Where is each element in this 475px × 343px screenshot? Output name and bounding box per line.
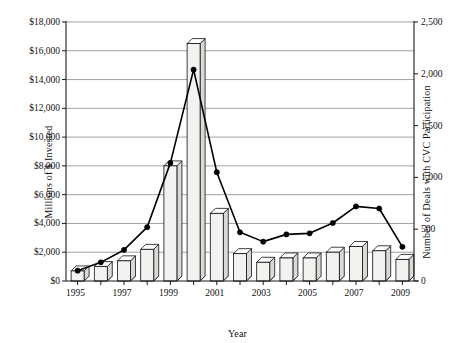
- y-axis-left-tick-label: $18,000: [8, 17, 60, 27]
- bar-face: [350, 246, 363, 281]
- deals-marker: [121, 247, 126, 252]
- y-axis-left-tick-label: $6,000: [8, 190, 60, 200]
- bar-face: [396, 259, 409, 281]
- y-axis-left-tick-label: $16,000: [8, 46, 60, 56]
- y-axis-left-tick-label: $14,000: [8, 75, 60, 85]
- deals-marker: [307, 231, 312, 236]
- deals-marker: [284, 232, 289, 237]
- deals-marker: [330, 220, 335, 225]
- y-axis-right-tick-label: 2,000: [421, 69, 442, 79]
- deals-marker: [98, 260, 103, 265]
- x-axis-tick-label: 2005: [298, 288, 317, 298]
- bar-face: [187, 44, 200, 281]
- y-axis-left-tick-label: $12,000: [8, 103, 60, 113]
- deals-marker: [75, 268, 80, 273]
- bar-side: [177, 161, 182, 281]
- bar-face: [141, 249, 154, 281]
- x-axis-tick-label: 2001: [205, 288, 224, 298]
- y-axis-right-tick-label: 0: [421, 276, 426, 286]
- bar-face: [303, 258, 316, 281]
- deals-marker: [145, 225, 150, 230]
- deals-marker: [237, 230, 242, 235]
- y-axis-right-tick-label: 2,500: [421, 17, 442, 27]
- bar-side: [362, 241, 367, 281]
- bar-side: [386, 246, 391, 281]
- x-axis-tick-label: 2003: [252, 288, 271, 298]
- x-axis-tick-label: 1995: [66, 288, 85, 298]
- bar-face: [373, 251, 386, 281]
- x-axis-tick-label: 1997: [113, 288, 132, 298]
- bar-face: [118, 261, 131, 281]
- y-axis-left-tick-label: $2,000: [8, 247, 60, 257]
- bar-side: [246, 249, 251, 281]
- y-axis-right-tick-label: 500: [421, 224, 435, 234]
- bar-side: [154, 244, 159, 281]
- bar-face: [234, 254, 247, 281]
- y-axis-right-tick-label: 1,500: [421, 121, 442, 131]
- bar-side: [200, 39, 205, 281]
- bar-face: [326, 252, 339, 281]
- deals-line: [78, 70, 403, 271]
- x-axis-tick-label: 2007: [345, 288, 364, 298]
- bar-face: [280, 258, 293, 281]
- bar-face: [164, 166, 177, 281]
- y-axis-left-tick-label: $4,000: [8, 218, 60, 228]
- deals-marker: [214, 170, 219, 175]
- y-axis-left-tick-label: $0: [8, 276, 60, 286]
- deals-marker: [191, 67, 196, 72]
- bar-side: [223, 208, 228, 281]
- y-axis-right-tick-label: 1,000: [421, 172, 442, 182]
- bar-face: [94, 267, 107, 281]
- y-axis-left-tick-label: $10,000: [8, 132, 60, 142]
- y-axis-left-tick-label: $8,000: [8, 161, 60, 171]
- bar-side: [339, 247, 344, 281]
- deals-marker: [261, 239, 266, 244]
- bar-face: [257, 262, 270, 281]
- deals-marker: [377, 206, 382, 211]
- deals-marker: [353, 204, 358, 209]
- deals-marker: [168, 160, 173, 165]
- x-axis-tick-label: 1999: [159, 288, 178, 298]
- deals-marker: [400, 244, 405, 249]
- x-axis-tick-label: 2009: [391, 288, 410, 298]
- bar-face: [210, 213, 223, 281]
- chart-figure: Millions of $ Invested Number of Deals w…: [0, 0, 475, 343]
